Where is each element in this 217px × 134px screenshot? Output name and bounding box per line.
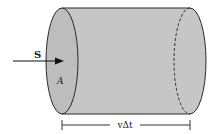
vector-label: S: [34, 49, 41, 60]
cylinder-body: [62, 8, 206, 114]
cylinder-diagram: S A vΔt: [0, 0, 217, 134]
area-label: A: [56, 76, 64, 86]
length-dimension: vΔt: [62, 120, 190, 130]
cylinder: [46, 8, 206, 114]
length-label: vΔt: [116, 120, 133, 130]
